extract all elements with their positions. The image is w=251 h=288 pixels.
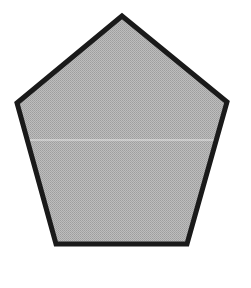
figure-canvas [0, 0, 251, 288]
pentagon-figure [0, 0, 251, 288]
